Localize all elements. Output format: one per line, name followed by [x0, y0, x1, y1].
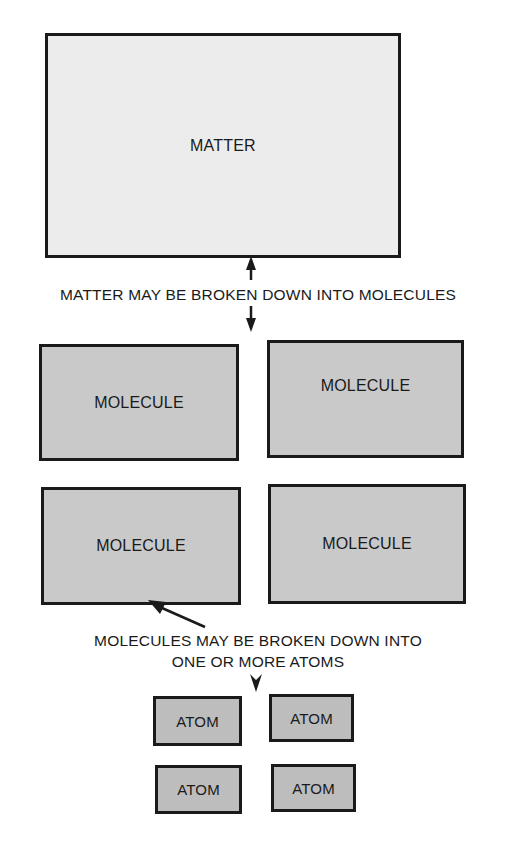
arrow-down-to-atoms-icon: [250, 674, 262, 692]
arrow-down-to-molecules-icon: [246, 306, 256, 332]
arrow-diagonal-to-molecule-icon: [148, 600, 205, 627]
arrow-up-to-matter-icon: [246, 256, 256, 280]
arrows-layer: [0, 0, 516, 851]
